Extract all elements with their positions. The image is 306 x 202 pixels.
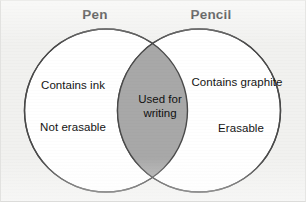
pen-only-item-1: Contains ink: [0, 79, 146, 91]
venn-diagram-canvas: Pen Pencil Contains ink Not erasable Con…: [0, 0, 306, 202]
intersection-label-line-2: writing: [128, 107, 192, 121]
pencil-only-item-1: Contains graphite: [168, 76, 306, 88]
pencil-only-item-2: Erasable: [176, 122, 306, 134]
intersection-label: Used for writing: [128, 93, 192, 120]
intersection-label-line-1: Used for: [138, 93, 181, 105]
set-title-pencil: Pencil: [116, 7, 306, 22]
pen-only-item-2: Not erasable: [0, 121, 146, 133]
